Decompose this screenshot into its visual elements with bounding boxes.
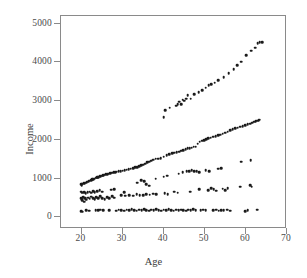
data-point (81, 210, 84, 213)
data-point (135, 193, 138, 196)
data-point (194, 145, 197, 148)
data-points-layer (61, 16, 285, 227)
data-point (120, 209, 123, 212)
data-point (232, 68, 235, 71)
data-point (261, 41, 264, 44)
data-point (198, 171, 201, 174)
data-point (152, 192, 155, 195)
data-point (240, 60, 243, 63)
data-point (136, 181, 139, 184)
data-point (215, 189, 218, 192)
plot-area (60, 15, 286, 228)
data-point (198, 188, 201, 191)
data-point (220, 167, 223, 170)
data-point (208, 170, 211, 173)
data-point (227, 72, 230, 75)
data-point (102, 209, 105, 212)
data-point (204, 86, 207, 89)
data-point (128, 194, 131, 197)
data-point (113, 196, 116, 199)
data-point (169, 106, 172, 109)
data-point (176, 103, 179, 106)
data-point (190, 98, 193, 101)
data-point (229, 210, 232, 213)
data-point (201, 89, 204, 92)
data-point (189, 191, 192, 194)
data-point (154, 177, 157, 180)
data-point (239, 185, 242, 188)
data-point (110, 189, 113, 192)
data-point (222, 209, 225, 212)
x-axis-tick-label: 20 (66, 233, 96, 243)
data-point (256, 208, 259, 211)
data-point (186, 94, 189, 97)
data-point (210, 83, 213, 86)
data-point (250, 185, 253, 188)
x-axis-tick-label: 60 (230, 233, 260, 243)
data-point (259, 118, 262, 121)
data-point (142, 194, 145, 197)
data-point (197, 91, 200, 94)
data-point (194, 209, 197, 212)
y-axis-tick-label: 2000 (8, 134, 52, 144)
data-point (162, 116, 165, 119)
data-point (180, 103, 183, 106)
data-point (148, 193, 151, 196)
data-point (207, 189, 210, 192)
data-point (176, 191, 179, 194)
y-axis-tick-label: 5000 (8, 18, 52, 28)
x-axis-tick-label: 50 (189, 233, 219, 243)
data-point (167, 193, 170, 196)
data-point (212, 209, 215, 212)
data-point (162, 175, 165, 178)
data-point (204, 169, 207, 172)
data-point (213, 81, 216, 84)
data-point (222, 76, 225, 79)
x-axis-tick-label: 30 (107, 233, 137, 243)
y-axis-tick-label: 0 (8, 211, 52, 221)
data-point (164, 109, 167, 112)
data-point (226, 208, 229, 211)
data-point (108, 209, 111, 212)
data-point (101, 191, 104, 194)
data-point (217, 167, 220, 170)
y-axis-tick-label: 3000 (8, 95, 52, 105)
data-point (166, 174, 169, 177)
data-point (236, 64, 239, 67)
data-point (193, 93, 196, 96)
data-point (155, 193, 158, 196)
data-point (250, 159, 253, 162)
data-point (120, 194, 123, 197)
data-point (246, 209, 249, 212)
data-point (240, 160, 243, 163)
data-point (224, 189, 227, 192)
x-axis-title: Age (0, 256, 307, 267)
data-point (113, 188, 116, 191)
data-point (250, 50, 253, 53)
data-point (204, 209, 207, 212)
x-axis-tick-label: 40 (148, 233, 178, 243)
data-point (143, 180, 146, 183)
data-point (185, 98, 188, 101)
data-point (123, 191, 126, 194)
data-point (177, 172, 180, 175)
x-axis-tick-label: 70 (271, 233, 301, 243)
data-point (145, 193, 148, 196)
scatter-plot-figure: Income Age 01000200030004000500020304050… (0, 0, 307, 278)
data-point (124, 194, 127, 197)
data-point (139, 194, 142, 197)
y-axis-tick-label: 1000 (8, 173, 52, 183)
data-point (88, 210, 91, 213)
data-point (173, 191, 176, 194)
data-point (245, 54, 248, 57)
data-point (163, 192, 166, 195)
data-point (181, 171, 184, 174)
data-point (254, 46, 257, 49)
data-point (227, 187, 230, 190)
data-point (83, 201, 86, 204)
data-point (217, 79, 220, 82)
data-point (132, 194, 135, 197)
data-point (148, 184, 151, 187)
y-axis-tick-label: 4000 (8, 56, 52, 66)
